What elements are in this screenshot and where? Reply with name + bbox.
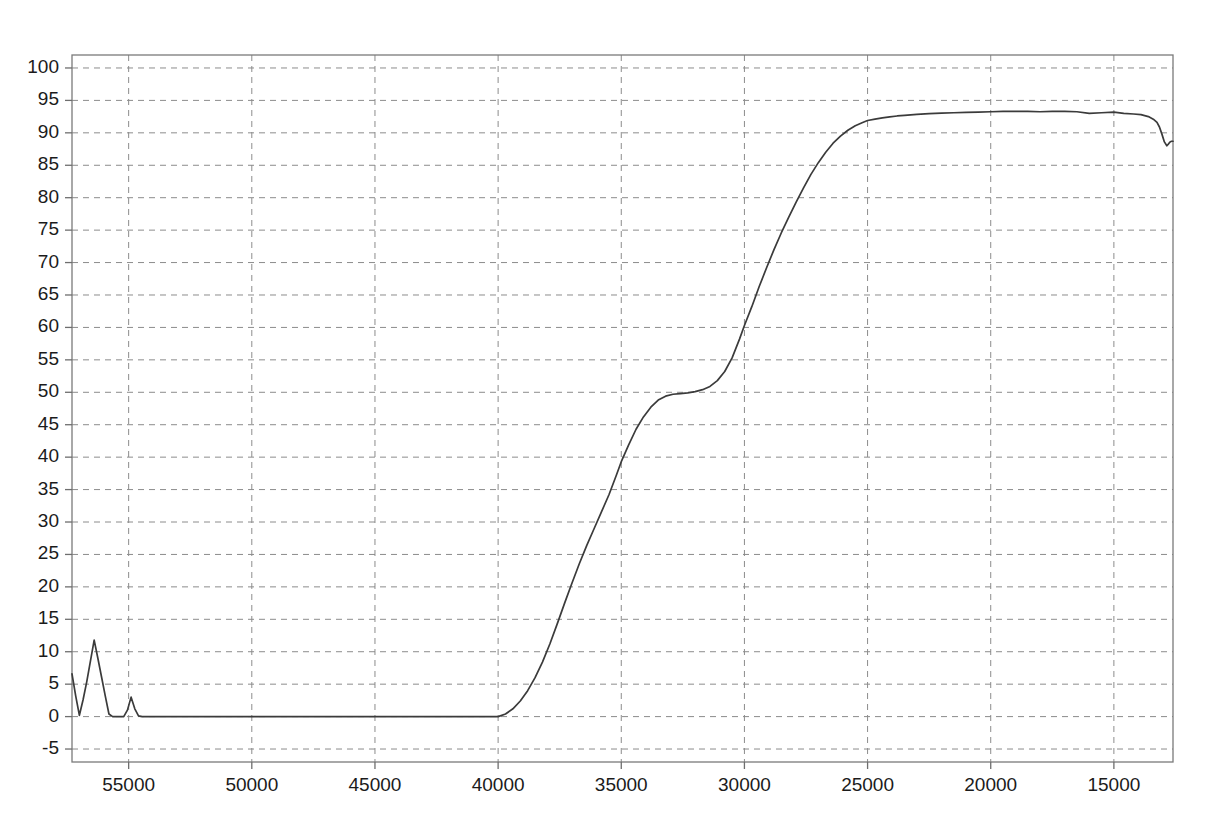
y-axis-tick-label: 55 <box>38 348 59 369</box>
y-axis-tick-label: 5 <box>48 672 59 693</box>
y-axis-tick-label: 70 <box>38 251 59 272</box>
y-axis-tick-label: 30 <box>38 510 59 531</box>
y-axis-tick-label: 10 <box>38 640 59 661</box>
y-axis-tick-label: 100 <box>27 56 59 77</box>
x-axis-tick-label: 35000 <box>595 774 648 795</box>
chart-container: -505101520253035404550556065707580859095… <box>0 0 1219 830</box>
x-axis-tick-label: 45000 <box>349 774 402 795</box>
y-axis-tick-label: 65 <box>38 283 59 304</box>
y-axis-tick-label: 80 <box>38 186 59 207</box>
y-axis-tick-label: 35 <box>38 478 59 499</box>
x-axis-tick-label: 20000 <box>964 774 1017 795</box>
y-axis-tick-label: 15 <box>38 607 59 628</box>
x-axis-tick-label: 15000 <box>1087 774 1140 795</box>
x-axis-tick-label: 55000 <box>102 774 155 795</box>
y-axis-tick-label: 90 <box>38 121 59 142</box>
plot-background <box>0 0 1219 830</box>
y-axis-tick-label: 0 <box>48 705 59 726</box>
y-axis-tick-label: 45 <box>38 413 59 434</box>
y-axis-tick-label: 20 <box>38 575 59 596</box>
y-axis-tick-label: 95 <box>38 88 59 109</box>
y-axis-tick-label: -5 <box>42 737 59 758</box>
x-axis-tick-label: 40000 <box>472 774 525 795</box>
y-axis-tick-label: 50 <box>38 380 59 401</box>
x-axis-tick-label: 30000 <box>718 774 771 795</box>
y-axis-tick-label: 40 <box>38 445 59 466</box>
transmittance-spectrum-plot: -505101520253035404550556065707580859095… <box>0 0 1219 830</box>
x-axis-tick-label: 25000 <box>841 774 894 795</box>
y-axis-tick-label: 85 <box>38 153 59 174</box>
x-axis-tick-labels: 5500050000450004000035000300002500020000… <box>102 774 1140 795</box>
x-axis-tick-label: 50000 <box>225 774 278 795</box>
y-axis-tick-label: 25 <box>38 542 59 563</box>
y-axis-tick-label: 75 <box>38 218 59 239</box>
y-axis-tick-label: 60 <box>38 315 59 336</box>
